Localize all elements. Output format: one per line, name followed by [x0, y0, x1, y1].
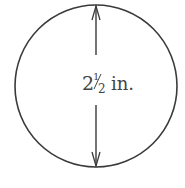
circle-diagram: 2 1 2 in. — [0, 0, 185, 188]
label-fraction-den: 2 — [98, 82, 106, 96]
diameter-arrow-up — [92, 6, 100, 55]
diameter-arrow-down — [92, 105, 100, 166]
diameter-label: 2 1 2 in. — [82, 71, 134, 96]
label-unit: in. — [111, 73, 134, 94]
